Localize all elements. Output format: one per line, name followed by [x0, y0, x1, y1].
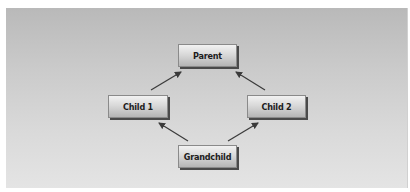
node-child-2: Child 2	[247, 95, 306, 118]
node-label: Child 1	[123, 102, 153, 112]
arrow-child1-to-parent	[151, 72, 181, 90]
arrow-child2-to-parent	[236, 72, 265, 90]
node-grandchild: Grandchild	[178, 145, 237, 168]
arrow-grandchild-to-child2	[228, 123, 258, 141]
arrow-grandchild-to-child1	[159, 123, 188, 141]
node-label: Grandchild	[184, 152, 232, 162]
node-label: Child 2	[261, 102, 291, 112]
node-child-1: Child 1	[108, 95, 168, 118]
node-label: Parent	[193, 51, 222, 61]
node-parent: Parent	[178, 44, 237, 67]
